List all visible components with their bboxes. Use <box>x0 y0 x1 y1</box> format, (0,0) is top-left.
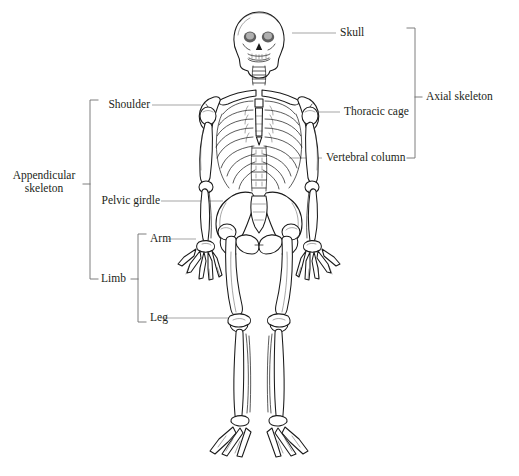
label-appendicular-line1: Appendicular <box>13 169 76 181</box>
skeleton-illustration <box>0 0 519 476</box>
vertebral-column <box>251 146 267 191</box>
leg-left <box>210 236 251 457</box>
label-axial-skeleton: Axial skeleton <box>426 90 493 103</box>
label-pelvic-girdle: Pelvic girdle <box>36 194 160 207</box>
label-arm: Arm <box>150 232 171 245</box>
skeleton-diagram: Skull Thoracic cage Vertebral column Axi… <box>0 0 519 476</box>
label-thoracic-cage: Thoracic cage <box>344 105 409 118</box>
bracket-axial <box>407 28 422 158</box>
cervical-spine <box>252 66 266 86</box>
label-leg: Leg <box>150 311 168 324</box>
label-skull: Skull <box>340 26 364 39</box>
label-appendicular-skeleton: Appendicular skeleton <box>8 169 80 195</box>
label-limb: Limb <box>101 272 126 285</box>
bracket-appendicular <box>83 100 98 279</box>
label-shoulder: Shoulder <box>46 98 150 111</box>
thoracic-cage <box>216 99 302 189</box>
label-vertebral-column: Vertebral column <box>326 151 406 164</box>
bracket-limb <box>131 234 146 322</box>
leg-right <box>267 236 308 457</box>
label-appendicular-line2: skeleton <box>25 182 63 194</box>
arm-right <box>296 122 340 280</box>
skeleton-figure <box>178 12 340 457</box>
